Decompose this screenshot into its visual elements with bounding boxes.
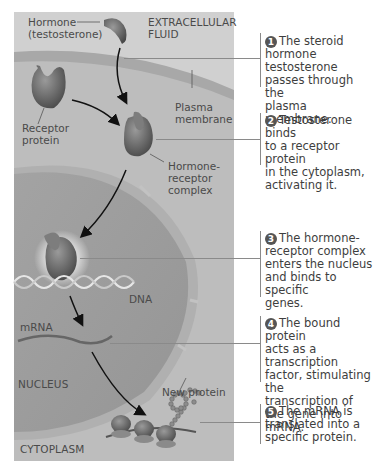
leader-step-2 (156, 139, 260, 140)
extracellular-fluid-label: EXTRACELLULAR FLUID (148, 16, 237, 40)
cytoplasm-label: CYTOPLASM (20, 443, 84, 455)
receptor-protein-label: Receptor protein (22, 122, 69, 146)
bracket-step-2 (260, 113, 261, 165)
plasma-membrane-label: Plasma membrane (175, 101, 232, 125)
leader-step-5 (200, 422, 260, 423)
hormone-label: Hormone (testosterone) (28, 16, 102, 40)
hormone-receptor-complex-label: Hormone- receptor complex (168, 160, 220, 196)
leader-step-3 (80, 258, 260, 259)
mrna-label: mRNA (20, 321, 53, 333)
step-5-caption: 5The mRNA is translated into a specific … (265, 405, 375, 444)
new-protein-label: New protein (162, 386, 226, 398)
bracket-step-1 (260, 33, 261, 87)
diagram-stage: Hormone (testosterone) EXTRACELLULAR FLU… (0, 0, 375, 472)
nucleus-label: NUCLEUS (18, 378, 68, 390)
leader-step-1 (124, 58, 260, 59)
step-2-caption: 2Testosterone binds to a receptor protei… (265, 114, 375, 192)
bracket-step-5 (260, 404, 261, 444)
leader-step-4 (110, 343, 260, 344)
step-3-caption: 3The hormone- receptor complex enters th… (265, 232, 375, 310)
bracket-step-3 (260, 231, 261, 297)
dna-label: DNA (129, 293, 152, 305)
bracket-step-4 (260, 316, 261, 382)
